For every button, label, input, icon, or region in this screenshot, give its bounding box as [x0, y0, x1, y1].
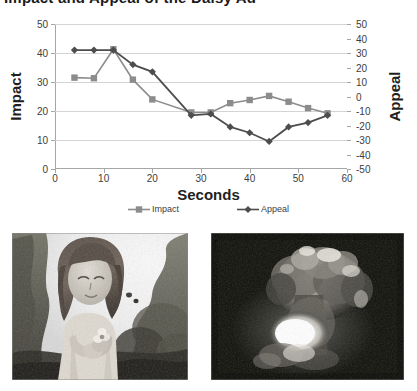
- photo-girl-with-flower-image: [12, 233, 188, 380]
- y-axis-tick-right: [347, 155, 351, 156]
- photo-row: [0, 215, 417, 391]
- x-axis-tick-label: 0: [52, 173, 58, 184]
- y-axis-tick-label-right: 50: [356, 19, 367, 30]
- legend-item-impact[interactable]: Impact: [128, 204, 179, 214]
- y-axis-tick-right: [347, 24, 351, 25]
- y-axis-tick-label-right: -10: [356, 106, 370, 117]
- data-series-layer: [55, 24, 347, 169]
- data-point-marker: [246, 97, 252, 103]
- series-appeal: [71, 47, 331, 146]
- y-axis-tick-label-right: 10: [356, 77, 367, 88]
- y-axis-tick-label-left: 50: [37, 19, 48, 30]
- photo-nuclear-explosion-image: [211, 233, 404, 380]
- legend-item-appeal[interactable]: Appeal: [237, 204, 289, 214]
- data-point-marker: [305, 105, 311, 111]
- y-axis-tick-label-right: -50: [356, 164, 370, 175]
- data-point-marker: [285, 99, 291, 105]
- y-axis-tick-label-right: 30: [356, 48, 367, 59]
- x-axis-title: Seconds: [0, 186, 417, 203]
- legend-marker-diamond-icon: [237, 205, 259, 214]
- page-title: Impact and Appeal of the Daisy Ad: [4, 0, 256, 6]
- y-axis-tick-right: [347, 39, 351, 40]
- y-axis-tick-label-left: 20: [37, 106, 48, 117]
- y-axis-tick-label-left: 30: [37, 77, 48, 88]
- y-axis-tick-right: [347, 140, 351, 141]
- legend-item-label: Impact: [152, 204, 179, 214]
- x-axis-tick-label: 50: [293, 173, 304, 184]
- data-point-marker: [71, 47, 78, 54]
- y-axis-title-right-label: Appeal: [386, 71, 403, 121]
- chart-figure: Impact Appeal 01020304050-50-40-30-20-10…: [0, 10, 417, 215]
- y-axis-tick-right: [347, 126, 351, 127]
- data-point-marker: [304, 119, 311, 126]
- chart-legend: ImpactAppeal: [0, 204, 417, 214]
- y-axis-tick-label-right: -40: [356, 149, 370, 160]
- y-axis-tick-label-left: 0: [42, 164, 48, 175]
- x-axis-tick-label: 40: [244, 173, 255, 184]
- y-axis-tick-label-right: -20: [356, 120, 370, 131]
- x-axis-tick-label: 30: [195, 173, 206, 184]
- legend-item-label: Appeal: [261, 204, 289, 214]
- data-point-marker: [91, 75, 97, 81]
- x-axis-tick-label: 10: [98, 173, 109, 184]
- y-axis-tick-right: [347, 97, 351, 98]
- data-point-marker: [266, 93, 272, 99]
- y-axis-tick-right: [347, 82, 351, 83]
- series-impact: [71, 46, 330, 116]
- y-axis-title-right: Appeal: [385, 24, 403, 169]
- y-axis-tick-label-right: -30: [356, 135, 370, 146]
- x-axis-tick-label: 20: [147, 173, 158, 184]
- data-point-marker: [227, 100, 233, 106]
- y-axis-tick-right: [347, 68, 351, 69]
- data-point-marker: [246, 129, 253, 136]
- data-point-marker: [90, 47, 97, 54]
- x-axis-tick-label: 60: [341, 173, 352, 184]
- data-point-marker: [130, 76, 136, 82]
- y-axis-tick-label-right: 40: [356, 33, 367, 44]
- y-axis-tick-label-left: 40: [37, 48, 48, 59]
- y-axis-tick-label-right: 0: [356, 91, 362, 102]
- legend-marker-square-icon: [128, 205, 150, 214]
- y-axis-tick-right: [347, 111, 351, 112]
- chart-title-strip: Impact and Appeal of the Daisy Ad: [0, 0, 417, 10]
- y-axis-tick-label-right: 20: [356, 62, 367, 73]
- data-point-marker: [149, 96, 155, 102]
- y-axis-tick-right: [347, 53, 351, 54]
- y-axis-title-left-label: Impact: [7, 72, 24, 120]
- y-axis-tick-label-left: 10: [37, 135, 48, 146]
- plot-area: 01020304050-50-40-30-20-1001020304050010…: [55, 24, 347, 169]
- data-point-marker: [71, 74, 77, 80]
- photo-nuclear-explosion: [211, 233, 404, 380]
- photo-girl-with-flower: [12, 233, 188, 380]
- y-axis-title-left: Impact: [6, 24, 24, 169]
